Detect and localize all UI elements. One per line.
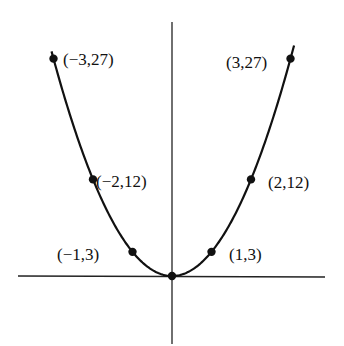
data-point-2 [128,248,136,256]
point-label-pos1: (1,3) [229,245,262,264]
point-label-neg1: (−1,3) [57,245,99,264]
data-point-6 [286,54,294,62]
data-point-5 [247,175,255,183]
point-label-neg3: (−3,27) [63,50,114,69]
parabola-chart: (−3,27) (−2,12) (−1,3) (1,3) (2,12) (3,2… [0,0,344,346]
data-point-4 [207,248,215,256]
point-label-pos3: (3,27) [226,53,267,72]
data-point-3 [168,272,176,280]
parabola-curve [52,45,295,276]
point-label-pos2: (2,12) [268,173,309,192]
data-point-0 [49,54,57,62]
point-label-neg2: (−2,12) [96,172,147,191]
